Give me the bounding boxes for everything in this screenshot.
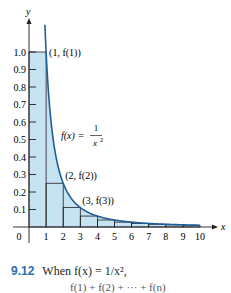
area-fill: [29, 52, 200, 227]
y-tick-label: 1.0: [14, 47, 27, 58]
x-tick-label: 8: [163, 231, 168, 242]
y-tick-label: 0.6: [14, 117, 27, 128]
x-tick-label: 7: [146, 231, 151, 242]
x-tick-label: 5: [112, 231, 117, 242]
function-label: f(x) =: [61, 130, 84, 142]
x-axis-label: x: [220, 221, 226, 232]
x-tick-label: 1: [44, 231, 49, 242]
y-tick-label: 0.4: [14, 152, 27, 163]
annotation-point-2: (2, f(2)): [65, 170, 97, 182]
x-tick-label: 6: [129, 231, 134, 242]
y-axis-label: y: [25, 6, 31, 17]
caption-text: When f(x) = 1/x²,: [42, 264, 126, 278]
y-tick-label: 0.8: [14, 82, 27, 93]
chart: xy0123456789100.10.20.30.40.50.60.70.80.…: [0, 0, 231, 262]
x-axis-arrow-icon: [212, 225, 218, 230]
function-numerator: 1: [94, 123, 99, 133]
y-tick-label: 0.7: [14, 99, 27, 110]
x-tick-label: 2: [61, 231, 66, 242]
function-denominator: x: [92, 138, 97, 148]
y-tick-label: 0.2: [14, 187, 27, 198]
y-tick-label: 0.3: [14, 169, 27, 180]
y-tick-label: 0.1: [14, 204, 27, 215]
x-tick-label: 0: [17, 231, 22, 242]
annotation-point-1: (1, f(1)): [49, 47, 81, 59]
figure-caption: 9.12When f(x) = 1/x²,: [11, 264, 127, 279]
partial-formula: f(1) + f(2) + ··· + f(n): [70, 281, 166, 293]
x-tick-label: 4: [95, 231, 100, 242]
x-tick-label: 10: [195, 231, 205, 242]
x-tick-label: 3: [78, 231, 83, 242]
y-axis-arrow-icon: [27, 18, 32, 24]
y-tick-label: 0.9: [14, 64, 27, 75]
annotation-point-3: (3, f(3)): [82, 195, 114, 207]
y-tick-label: 0.5: [14, 134, 27, 145]
x-tick-label: 9: [180, 231, 185, 242]
figure-number: 9.12: [11, 264, 34, 278]
function-exponent: 2: [100, 136, 103, 143]
